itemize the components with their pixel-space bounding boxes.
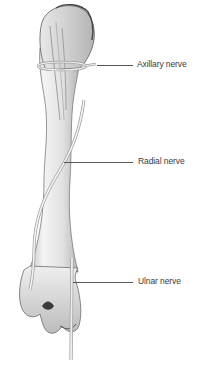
humerus-illustration (0, 0, 201, 378)
ulnar-nerve (71, 258, 72, 360)
axillary-leader-line (97, 65, 133, 66)
label-axillary-nerve: Axillary nerve (137, 59, 187, 69)
ulnar-leader-line (73, 282, 133, 283)
radial-leader-line (64, 162, 133, 163)
label-ulnar-nerve: Ulnar nerve (138, 276, 181, 286)
humerus-head (40, 6, 94, 70)
label-radial-nerve: Radial nerve (138, 156, 185, 166)
humerus-shaft (30, 45, 84, 272)
